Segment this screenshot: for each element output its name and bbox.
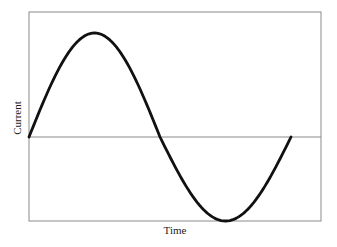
current-waveform: [29, 33, 291, 221]
sine-wave-chart: Time Current: [0, 0, 337, 247]
y-axis-label: Current: [11, 101, 23, 135]
plot-frame: [29, 12, 321, 221]
x-axis-label: Time: [164, 224, 187, 236]
